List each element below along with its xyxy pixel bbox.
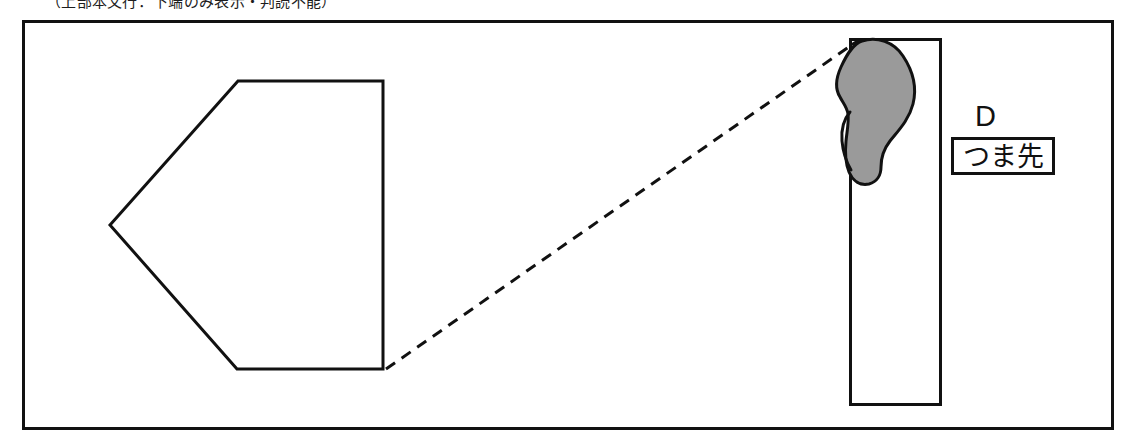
label-d: D	[975, 102, 996, 131]
boxed-label-toe: つま先	[951, 137, 1055, 175]
boxed-label-text: つま先	[963, 143, 1044, 170]
figure-stage: （上部本文行：下端のみ表示・判読不能） D つま先	[0, 0, 1134, 445]
shoe-sole-diagram	[0, 0, 1134, 445]
